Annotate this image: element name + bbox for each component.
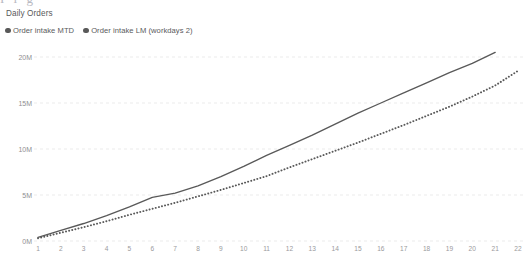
x-axis-tick-label: 9 xyxy=(219,245,223,252)
chart-plot-area xyxy=(0,0,526,268)
x-axis-tick-label: 11 xyxy=(263,245,270,252)
y-axis-tick-label: 5M xyxy=(22,192,32,199)
x-axis-tick-label: 10 xyxy=(240,245,247,252)
x-axis-tick-label: 4 xyxy=(105,245,109,252)
x-axis-tick-label: 12 xyxy=(286,245,293,252)
x-axis-tick-label: 20 xyxy=(469,245,476,252)
x-axis-tick-label: 1 xyxy=(36,245,40,252)
x-axis-tick-label: 7 xyxy=(173,245,177,252)
x-axis-tick-label: 16 xyxy=(377,245,384,252)
y-axis-tick-label: 0M xyxy=(22,238,32,245)
x-axis-tick-label: 21 xyxy=(491,245,498,252)
x-axis-tick-label: 15 xyxy=(354,245,361,252)
series-line xyxy=(38,71,518,238)
x-axis-tick-label: 22 xyxy=(514,245,521,252)
y-gridlines xyxy=(34,57,524,241)
x-axis-tick-label: 6 xyxy=(150,245,154,252)
x-axis-tick-label: 5 xyxy=(128,245,132,252)
daily-orders-chart-widget: I i g Daily Orders Order intake MTD Orde… xyxy=(0,0,526,268)
y-axis-tick-label: 20M xyxy=(18,54,32,61)
x-axis-tick-label: 19 xyxy=(446,245,453,252)
x-axis-tick-label: 13 xyxy=(309,245,316,252)
y-axis-tick-label: 15M xyxy=(18,100,32,107)
x-axis-tick-label: 2 xyxy=(59,245,63,252)
x-axis-tick-label: 8 xyxy=(196,245,200,252)
x-axis-tick-label: 17 xyxy=(400,245,407,252)
series-line xyxy=(38,52,495,237)
series-lines xyxy=(38,52,518,238)
x-axis-tick-label: 14 xyxy=(331,245,338,252)
x-axis-tick-label: 18 xyxy=(423,245,430,252)
y-axis-tick-label: 10M xyxy=(18,146,32,153)
x-axis-tick-label: 3 xyxy=(82,245,86,252)
